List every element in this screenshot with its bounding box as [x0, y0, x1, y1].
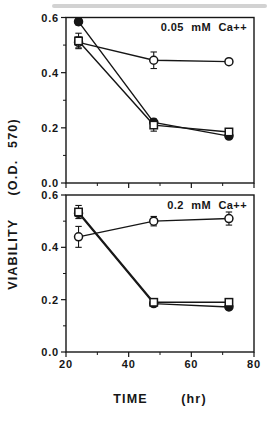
marker-open-square	[150, 299, 157, 306]
y-tick-label: 0.6	[41, 189, 59, 201]
x-axis-label: TIME (hr)	[66, 392, 254, 406]
x-tick-label: 80	[247, 358, 261, 370]
marker-open-square	[225, 128, 232, 135]
y-tick-label: 0.2	[41, 122, 59, 134]
figure: 0.00.20.40.60.00.20.40.620406080 0.05 mM…	[0, 0, 270, 423]
y-tick-label: 0.0	[41, 346, 59, 358]
y-tick-label: 0.6	[41, 12, 59, 24]
marker-open-circle	[75, 233, 83, 241]
marker-open-circle	[150, 56, 158, 64]
marker-open-circle	[225, 58, 233, 66]
marker-open-square	[150, 121, 157, 128]
top-panel-title: 0.05 mM Ca++	[66, 21, 247, 33]
x-tick-label: 20	[59, 358, 73, 370]
marker-open-square	[225, 299, 232, 306]
x-tick-label: 60	[184, 358, 198, 370]
y-tick-label: 0.4	[41, 241, 59, 253]
y-tick-label: 0.0	[41, 177, 59, 189]
marker-open-circle	[225, 215, 233, 223]
panel-bottom: 0.00.20.40.620406080	[41, 189, 261, 370]
y-axis-label: VIABILITY (O.D. 570)	[6, 54, 20, 354]
marker-open-circle	[150, 217, 158, 225]
series-line-filled-circle	[79, 213, 229, 307]
viability-chart: 0.00.20.40.60.00.20.40.620406080	[0, 0, 270, 423]
panel-top: 0.00.20.40.6	[41, 12, 254, 190]
bottom-panel-title: 0.2 mM Ca++	[66, 199, 247, 211]
y-tick-label: 0.2	[41, 294, 59, 306]
y-tick-label: 0.4	[41, 67, 59, 79]
x-tick-label: 40	[122, 358, 136, 370]
marker-open-square	[75, 37, 82, 44]
